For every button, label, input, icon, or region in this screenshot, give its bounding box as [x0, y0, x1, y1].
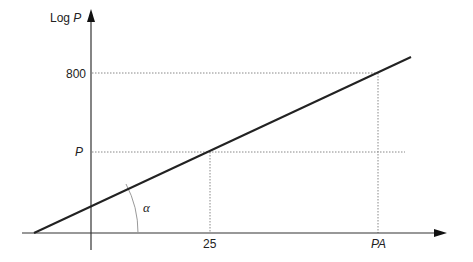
x-axis-arrow-icon: [434, 229, 447, 237]
y-tick-800: 800: [66, 68, 86, 80]
axes: [22, 16, 440, 250]
y-tick-p: P: [75, 146, 83, 158]
y-axis-label-prefix: Log: [50, 11, 73, 25]
angle-arc: [126, 184, 138, 233]
x-tick-pa: PA: [371, 238, 386, 250]
x-tick-25: 25: [203, 238, 216, 250]
diagram-canvas: [0, 0, 473, 262]
y-axis-arrow-icon: [87, 9, 95, 22]
angle-alpha-label: α: [143, 201, 150, 214]
guide-lines: [92, 73, 405, 233]
y-axis-label-var: P: [73, 11, 81, 25]
y-axis-label: Log P: [50, 12, 81, 24]
